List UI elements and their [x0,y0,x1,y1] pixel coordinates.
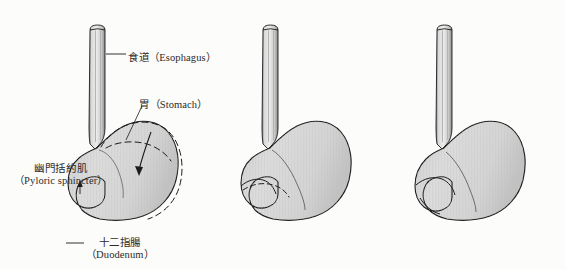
label-esophagus: 食道（Esophagus） [128,47,216,66]
label-pyloric-sphincter-latin: （Pyloric sphincter） [14,175,107,187]
label-pyloric-sphincter-cjk: 幽門括約肌 [14,163,107,175]
stomach-shape-2 [241,121,351,220]
esophagus-shape-3 [436,25,452,149]
esophagus-shape-2 [262,25,278,149]
label-esophagus-latin: （Esophagus） [149,52,216,64]
label-duodenum-latin: （Duodenum） [86,249,154,261]
panel-2-stomach-stage-2 [241,25,351,220]
label-stomach-cjk: 胃 [139,99,150,111]
label-duodenum-cjk: 十二指腸 [86,237,154,249]
stomach-shape-3 [415,121,525,220]
label-esophagus-cjk: 食道 [128,52,149,64]
figure-canvas: 食道（Esophagus） 胃（Stomach） 幽門括約肌 （Pyloric … [0,0,566,270]
label-stomach-latin: （Stomach） [150,99,208,111]
label-pyloric-sphincter: 幽門括約肌 （Pyloric sphincter） [14,163,107,188]
panel-3-stomach-stage-3 [415,25,525,220]
stomach-diagram [0,0,566,270]
label-stomach: 胃（Stomach） [139,94,207,113]
label-duodenum: 十二指腸 （Duodenum） [86,237,154,262]
esophagus-shape-1 [89,25,105,149]
